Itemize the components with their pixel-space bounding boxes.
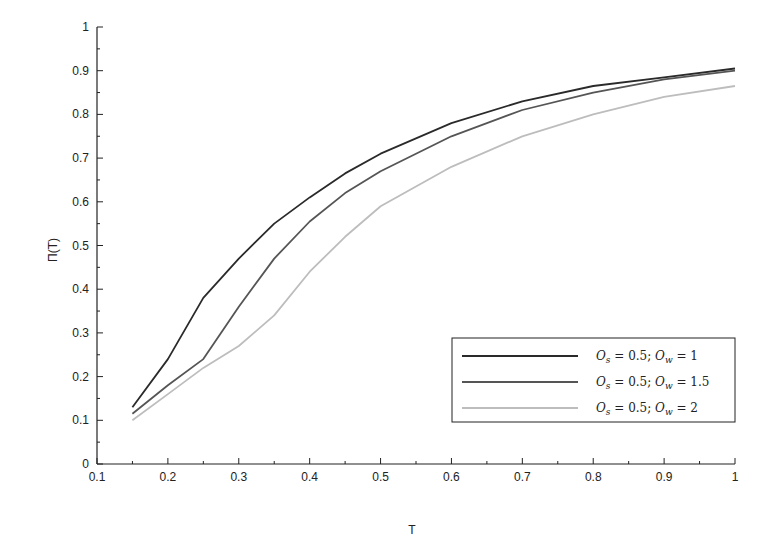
- y-tick-label: 0.4: [72, 282, 89, 296]
- y-tick-label: 0.3: [72, 326, 89, 340]
- x-tick-label: 0.6: [443, 470, 460, 484]
- y-tick-label: 0.6: [72, 195, 89, 209]
- y-axis-label: Π(T): [46, 238, 60, 262]
- y-tick-label: 0.2: [72, 370, 89, 384]
- x-axis-label: T: [408, 523, 416, 537]
- x-tick-label: 0.4: [301, 470, 318, 484]
- y-tick-label: 1: [82, 20, 89, 34]
- legend-label: Os = 0.5; Ow = 2: [596, 401, 698, 417]
- y-tick-label: 0.1: [72, 413, 89, 427]
- x-tick-label: 0.9: [656, 470, 673, 484]
- x-tick-label: 0.2: [160, 470, 177, 484]
- x-tick-label: 0.8: [585, 470, 602, 484]
- y-tick-label: 0: [82, 457, 89, 471]
- y-tick-label: 0.5: [72, 239, 89, 253]
- legend: Os = 0.5; Ow = 1Os = 0.5; Ow = 1.5Os = 0…: [452, 338, 735, 422]
- legend-label: Os = 0.5; Ow = 1: [596, 349, 698, 365]
- x-tick-label: 0.1: [89, 470, 106, 484]
- y-tick-label: 0.8: [72, 107, 89, 121]
- legend-label: Os = 0.5; Ow = 1.5: [596, 375, 709, 391]
- x-tick-label: 0.5: [372, 470, 389, 484]
- x-tick-label: 0.7: [514, 470, 531, 484]
- y-tick-label: 0.7: [72, 151, 89, 165]
- x-tick-label: 0.3: [230, 470, 247, 484]
- line-chart: 0.10.20.30.40.50.60.70.80.9100.10.20.30.…: [0, 0, 769, 541]
- x-tick-label: 1: [732, 470, 739, 484]
- y-tick-label: 0.9: [72, 64, 89, 78]
